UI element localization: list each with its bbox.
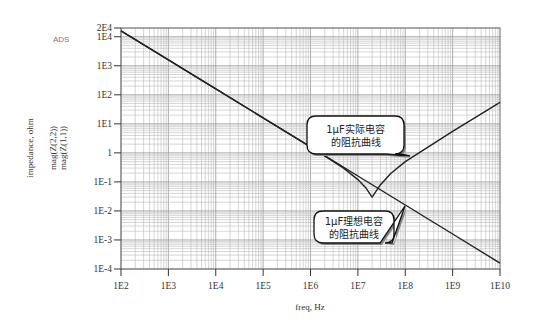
y-tick-label: 1E4 [97,32,113,42]
ads-label: ADS [53,35,69,44]
x-tick-label: 1E6 [303,281,319,291]
x-tick-label: 1E2 [113,281,129,291]
callout-ideal-capacitor: 1μF理想电容的阻抗曲线 [314,206,407,245]
y-tick-label: 1E-1 [94,177,113,187]
y-tick-label: 1E1 [97,119,113,129]
x-axis-title: freq, Hz [295,302,324,312]
y-tick-label: 1 [107,148,112,158]
callout-text-line2: 的阻抗曲线 [331,136,381,148]
x-tick-label: 1E5 [255,281,271,291]
x-tick-label: 1E7 [350,281,366,291]
y-axis: 2E41E41E31E21E111E-11E-21E-31E-4 [94,23,121,274]
y-series-label-1: mag(Z(2,2)) [48,126,58,170]
y-tick-label: 1E-4 [94,264,113,274]
y-tick-label: 1E-2 [94,206,113,216]
x-axis: 1E21E31E41E51E61E71E81E91E10 [113,269,510,291]
callout-text-line2: 的阻抗曲线 [329,228,379,240]
y-tick-label: 1E2 [97,90,113,100]
x-tick-label: 1E3 [161,281,177,291]
y-tick-label: 1E-3 [94,235,113,245]
callout-text-line1: 1μF实际电容 [326,123,384,135]
callout-real-capacitor: 1μF实际电容的阻抗曲线 [307,116,412,158]
callout-bubble [307,116,410,156]
y-tick-label: 1E3 [97,61,113,71]
y-series-label-2: mag(Z(1,1)) [58,126,68,170]
y-axis-title: impedance, ohm [25,118,35,177]
x-tick-label: 1E4 [208,281,224,291]
impedance-chart: ADS 2E41E41E31E21E111E-11E-21E-31E-4 1E2… [0,0,535,332]
x-tick-label: 1E8 [398,281,414,291]
callout-text-line1: 1μF理想电容 [325,215,383,227]
x-tick-label: 1E10 [490,281,510,291]
x-tick-label: 1E9 [445,281,461,291]
